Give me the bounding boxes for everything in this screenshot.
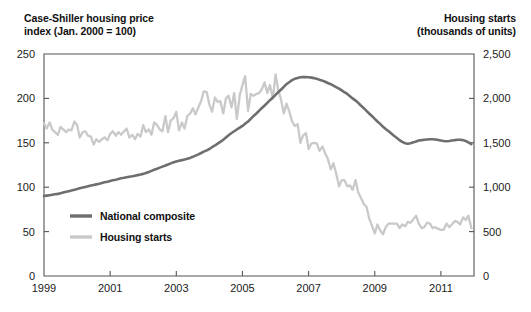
- axis-ticks: [44, 98, 474, 276]
- chart-legend: National compositeHousing starts: [70, 210, 195, 243]
- x-tick-label: 2001: [98, 282, 122, 294]
- right-tick-label: 1,500: [483, 137, 511, 149]
- right-tick-label: 1,000: [483, 181, 511, 193]
- left-tick-label: 150: [17, 137, 35, 149]
- left-tick-label: 200: [17, 92, 35, 104]
- x-tick-label: 2009: [363, 282, 387, 294]
- left-tick-label: 50: [23, 226, 35, 238]
- legend-label: National composite: [100, 210, 195, 222]
- right-axis-tick-labels: 05001,0001,5002,0002,500: [483, 48, 511, 282]
- right-tick-label: 2,500: [483, 48, 511, 60]
- right-tick-label: 500: [483, 226, 501, 238]
- x-tick-label: 2003: [164, 282, 188, 294]
- left-axis-tick-labels: 050100150200250: [17, 48, 35, 282]
- x-tick-label: 2011: [429, 282, 453, 294]
- right-tick-label: 0: [483, 270, 489, 282]
- x-axis-tick-labels: 1999200120032005200720092011: [32, 282, 453, 294]
- x-tick-label: 1999: [32, 282, 56, 294]
- x-tick-label: 2005: [230, 282, 254, 294]
- left-tick-label: 250: [17, 48, 35, 60]
- left-tick-label: 0: [29, 270, 35, 282]
- x-tick-label: 2007: [296, 282, 320, 294]
- right-tick-label: 2,000: [483, 92, 511, 104]
- left-tick-label: 100: [17, 181, 35, 193]
- legend-label: Housing starts: [100, 231, 172, 243]
- chart-plot-area: 050100150200250 05001,0001,5002,0002,500…: [0, 0, 531, 312]
- chart-figure: Case-Shiller housing price index (Jan. 2…: [0, 0, 531, 312]
